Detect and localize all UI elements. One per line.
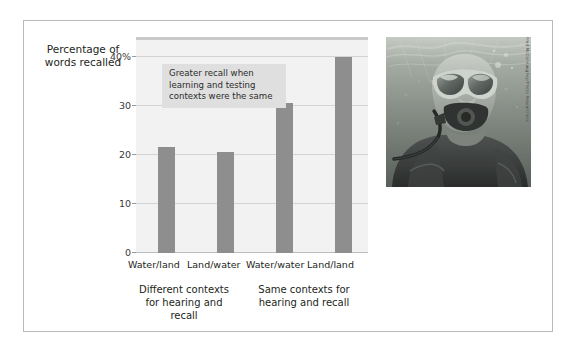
plot-area: 40% 30 20 10 0 Greater recall whe bbox=[136, 37, 368, 253]
scuba-diver-underwater-photo bbox=[386, 37, 531, 187]
bar-land-water bbox=[217, 152, 234, 253]
tick-mark-20 bbox=[132, 154, 136, 155]
y-tick-label-20: 20 bbox=[119, 148, 131, 159]
tick-mark-0 bbox=[132, 252, 136, 253]
bar-water-land bbox=[158, 147, 175, 253]
tick-mark-30 bbox=[132, 105, 136, 106]
x-tick-label-water-water: Water/water bbox=[246, 259, 297, 270]
photo-credit: Fred McConnaughey/Photo Researchers bbox=[523, 37, 532, 187]
x-tick-label-land-land: Land/land bbox=[305, 259, 356, 270]
bar-water-water bbox=[276, 103, 293, 253]
group-caption-different-contexts: Different contexts for hearing and recal… bbox=[132, 283, 236, 322]
tick-mark-10 bbox=[132, 203, 136, 204]
x-tick-label-water-land: Water/land bbox=[128, 259, 179, 270]
bar-land-land bbox=[335, 57, 352, 253]
greater-recall-note: Greater recall when learning and testing… bbox=[162, 64, 286, 108]
group-caption-same-contexts: Same contexts for hearing and recall bbox=[252, 283, 356, 309]
bar-chart: Percentage of words recalled 40% 30 20 1… bbox=[24, 21, 376, 333]
tick-mark-40 bbox=[132, 56, 136, 57]
y-tick-label-30: 30 bbox=[119, 99, 131, 110]
y-tick-label-10: 10 bbox=[119, 197, 131, 208]
y-tick-label-0: 0 bbox=[125, 247, 131, 258]
photo-block: Fred McConnaughey/Photo Researchers bbox=[386, 37, 538, 187]
y-tick-label-40: 40% bbox=[110, 50, 131, 61]
gridline-40: 40% bbox=[136, 56, 368, 57]
x-tick-label-land-water: Land/water bbox=[187, 259, 238, 270]
figure-container: Percentage of words recalled 40% 30 20 1… bbox=[23, 20, 553, 332]
